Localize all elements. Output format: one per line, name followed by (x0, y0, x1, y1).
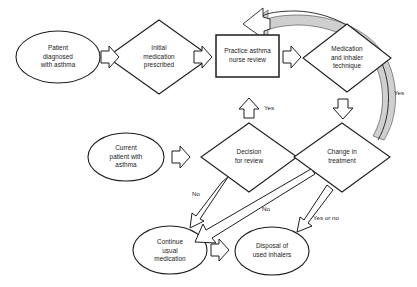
arrow-patient-to-initial-medication (101, 46, 119, 68)
arrow-current-patient-to-decision (172, 146, 190, 168)
flowchart-graphics (0, 0, 417, 287)
edge-label-yes-curved-loop: Yes (394, 89, 404, 97)
yes-loop-text: Yes (394, 89, 404, 96)
node-decision-for-review (201, 123, 297, 192)
arrow-yes-or-no-change-to-disposal (297, 185, 333, 232)
node-practice-asthma-nurse-review (216, 35, 279, 77)
yes-up-text: Yes (264, 104, 274, 111)
edge-label-no-change-to-continue: No (262, 205, 270, 213)
no-decision-text: No (192, 190, 200, 197)
flowchart-canvas: Patient diagnosed with asthma Initial me… (0, 0, 417, 287)
edge-label-no-decision-to-continue: No (192, 190, 200, 198)
node-continue-usual-medication (133, 226, 207, 274)
node-patient-diagnosed (16, 31, 100, 83)
arrow-medication-technique-to-change (333, 99, 353, 119)
edge-label-yes-or-no-change-to-disposal: Yes or no (313, 214, 339, 222)
node-medication-inhaler-technique (303, 24, 391, 92)
yes-or-no-text: Yes or no (313, 214, 339, 221)
no-change-text: No (262, 205, 270, 212)
edge-label-yes-up-to-nurse-review: Yes (264, 104, 274, 112)
node-current-patient (88, 133, 164, 181)
node-disposal-used-inhalers (235, 227, 309, 275)
arrow-decision-to-nurse-review (239, 98, 259, 118)
arrow-nurse-review-to-medication-technique (283, 46, 301, 68)
